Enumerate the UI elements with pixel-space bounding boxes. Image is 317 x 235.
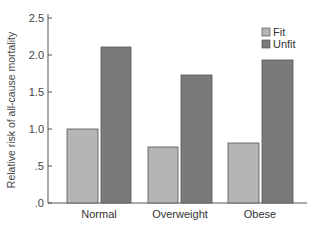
- y-tick-label: 2.0: [29, 49, 44, 61]
- bar-overweight-unfit: [181, 75, 212, 203]
- y-tick-label: .5: [35, 160, 44, 172]
- bar-obese-unfit: [262, 60, 293, 203]
- bars: [67, 47, 293, 203]
- legend-label-unfit: Unfit: [273, 38, 296, 50]
- chart: Relative risk of all-cause mortality .0 …: [0, 0, 317, 235]
- y-tick-label: 1.5: [29, 86, 44, 98]
- bar-normal-fit: [67, 129, 98, 203]
- legend-swatch-unfit: [262, 40, 270, 48]
- bar-overweight-fit: [148, 147, 178, 203]
- y-tick-label: 1.0: [29, 123, 44, 135]
- y-axis-title: Relative risk of all-cause mortality: [5, 31, 17, 188]
- x-category-label: Obese: [244, 208, 276, 220]
- legend-swatch-fit: [262, 28, 270, 36]
- bar-normal-unfit: [101, 47, 131, 203]
- x-category-label: Normal: [81, 208, 116, 220]
- bar-obese-fit: [228, 143, 259, 203]
- x-category-label: Overweight: [152, 208, 208, 220]
- y-tick-label: 2.5: [29, 12, 44, 24]
- y-tick-label: .0: [35, 197, 44, 209]
- legend-label-fit: Fit: [273, 26, 285, 38]
- y-ticks: .0 .5 1.0 1.5 2.0 2.5: [29, 12, 52, 209]
- legend: Fit Unfit: [262, 26, 296, 50]
